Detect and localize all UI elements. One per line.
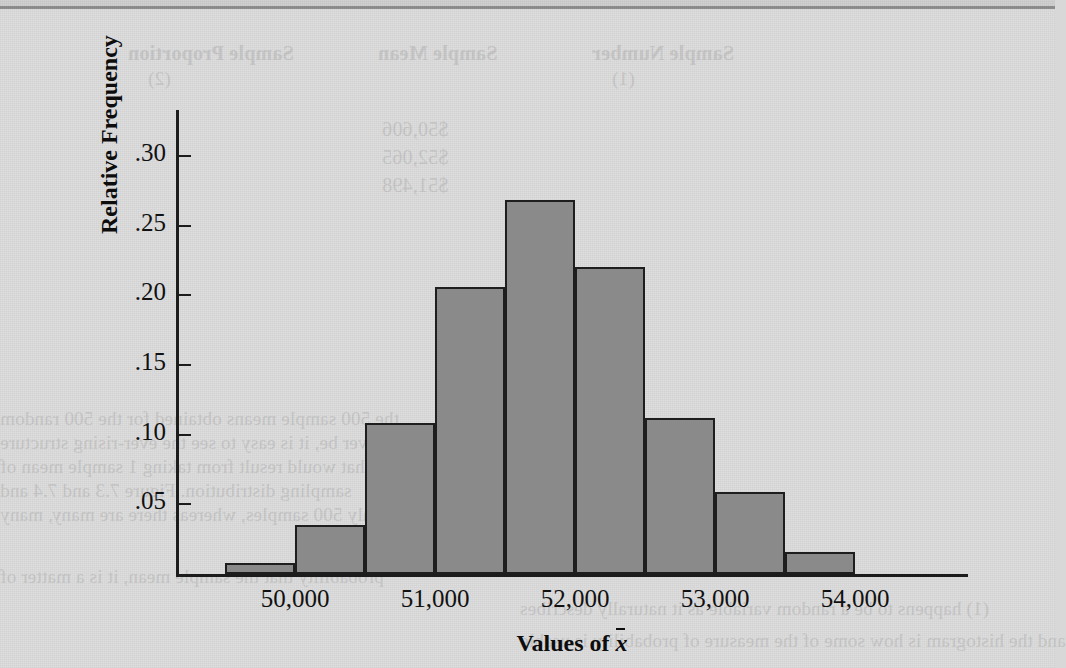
- y-tick-.25: [179, 225, 191, 227]
- x-axis-title-prefix: Values of: [516, 630, 615, 656]
- y-tick-label-.30: .30: [118, 139, 166, 167]
- y-tick-.05: [179, 503, 191, 505]
- histogram-bar: [435, 287, 505, 574]
- histogram-bar: [505, 200, 575, 574]
- histogram-bar: [225, 563, 295, 574]
- x-tick-label-50,000: 50,000: [225, 585, 365, 613]
- x-tick-label-52,000: 52,000: [505, 585, 645, 613]
- histogram-figure: Relative Frequency .05.10.15.20.25.30 50…: [0, 9, 1055, 668]
- y-tick-label-.10: .10: [118, 418, 166, 446]
- y-tick-label-.25: .25: [118, 209, 166, 237]
- x-tick-label-51,000: 51,000: [365, 585, 505, 613]
- x-axis-line: [176, 574, 968, 577]
- y-tick-.20: [179, 294, 191, 296]
- x-tick-label-54,000: 54,000: [785, 585, 925, 613]
- histogram-bar: [645, 418, 715, 574]
- histogram-bar: [575, 267, 645, 574]
- y-tick-.15: [179, 364, 191, 366]
- y-tick-label-.05: .05: [118, 487, 166, 515]
- x-tick-label-53,000: 53,000: [645, 585, 785, 613]
- histogram-bar: [365, 423, 435, 574]
- y-axis-line: [176, 110, 179, 577]
- y-tick-.30: [179, 155, 191, 157]
- y-tick-label-.15: .15: [118, 348, 166, 376]
- histogram-bar: [715, 492, 785, 574]
- y-axis-title: Relative Frequency: [96, 35, 123, 234]
- histogram-bar: [295, 525, 365, 574]
- x-axis-title: Values of x: [176, 630, 968, 657]
- plot-area: .05.10.15.20.25.30 50,00051,00052,00053,…: [176, 110, 968, 577]
- y-tick-.10: [179, 434, 191, 436]
- histogram-bar: [785, 552, 855, 574]
- x-bar-symbol: x: [616, 630, 628, 657]
- y-tick-label-.20: .20: [118, 278, 166, 306]
